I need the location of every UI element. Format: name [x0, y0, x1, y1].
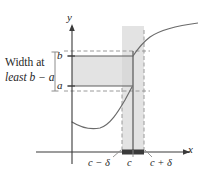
x-tick-label-c: c	[127, 158, 132, 169]
x-tick-label-c-minus-delta: c − δ	[88, 158, 110, 169]
x-tick-label-c-plus-delta: c + δ	[150, 158, 172, 169]
y-tick-label-b: b	[57, 50, 63, 61]
y-axis-arrowhead	[69, 24, 75, 31]
width-caption: Width at least b − a	[5, 55, 51, 85]
y-tick-label-a: a	[57, 80, 63, 91]
width-caption-line2: least b − a	[5, 71, 55, 83]
axis-label-x: x	[188, 144, 193, 155]
delta-band-overlap	[122, 56, 133, 86]
leader-line-c-plus-delta	[145, 150, 152, 157]
figure-canvas	[0, 0, 198, 174]
width-caption-line1: Width at	[5, 56, 44, 68]
math-figure: Width at least b − a y x b a c − δ c c +…	[0, 0, 198, 174]
leader-line-c-minus-delta	[113, 150, 121, 157]
axis-label-y: y	[67, 12, 72, 23]
